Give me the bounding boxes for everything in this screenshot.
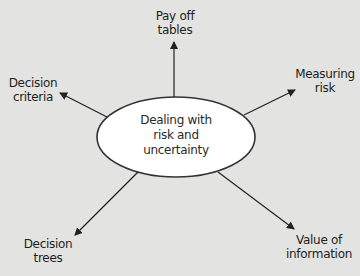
branch-label-line: criteria [8, 90, 58, 104]
branch-label-line: Measuring [291, 67, 359, 81]
arrow-decision-criteria [60, 93, 107, 117]
arrow-decision-trees [75, 172, 138, 235]
center-label-line: Dealing with [110, 113, 242, 128]
diagram-canvas: Dealing with risk and uncertainty Pay of… [0, 0, 360, 276]
branch-label-line: information [283, 247, 355, 261]
branch-label-line: tables [148, 23, 202, 37]
center-label-line: uncertainty [110, 143, 242, 158]
branch-decision-criteria-label: Decision criteria [8, 76, 58, 104]
branch-decision-trees-label: Decision trees [18, 237, 78, 265]
center-label-line: risk and [110, 128, 242, 143]
arrow-measuring-risk [244, 90, 295, 115]
branch-label-line: Decision [8, 76, 58, 90]
branch-value-of-information-label: Value of information [283, 233, 355, 261]
arrow-value-of-information [218, 172, 294, 229]
branch-label-line: Value of [283, 233, 355, 247]
branch-measuring-risk-label: Measuring risk [291, 67, 359, 95]
branch-payoff-tables-label: Pay off tables [148, 9, 202, 37]
branch-label-line: risk [291, 81, 359, 95]
branch-label-line: Pay off [148, 9, 202, 23]
branch-label-line: Decision [18, 237, 78, 251]
center-node-label: Dealing with risk and uncertainty [110, 113, 242, 158]
branch-label-line: trees [18, 251, 78, 265]
